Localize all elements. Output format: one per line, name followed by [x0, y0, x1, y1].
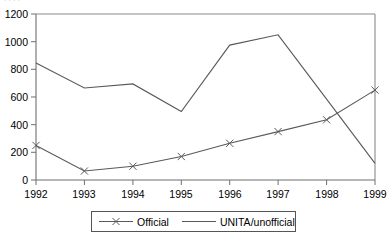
x-tick-label: 1992: [16, 189, 56, 199]
y-tick-label: 800: [0, 64, 28, 74]
y-tick-label: 400: [0, 120, 28, 130]
legend-item-official[interactable]: Official: [92, 212, 169, 231]
x-tick-label: 1993: [64, 189, 104, 199]
x-tick-label: 1999: [355, 189, 388, 199]
axis-frame: [36, 14, 375, 180]
series-line-unita-unofficial: [36, 35, 375, 164]
line-chart: . . . .: [0, 0, 388, 240]
y-tick-label: 1000: [0, 37, 28, 47]
x-tick-label: 1996: [210, 189, 250, 199]
legend-line-icon: [182, 216, 216, 227]
y-axis-ticks: [31, 14, 36, 180]
legend-marker-x-icon: [99, 216, 133, 227]
y-tick-label: 0: [0, 175, 28, 185]
plot-area: [0, 0, 388, 240]
chart-legend: Official UNITA/unofficial: [91, 211, 296, 232]
y-tick-label: 200: [0, 147, 28, 157]
legend-item-unita-unofficial[interactable]: UNITA/unofficial: [169, 212, 295, 231]
legend-label-unita-unofficial: UNITA/unofficial: [220, 216, 295, 228]
x-tick-label: 1997: [258, 189, 298, 199]
y-tick-label: 1200: [0, 9, 28, 19]
x-axis-ticks: [36, 180, 375, 185]
y-tick-label: 600: [0, 92, 28, 102]
x-tick-label: 1994: [113, 189, 153, 199]
legend-label-official: Official: [137, 216, 169, 228]
x-tick-label: 1995: [161, 189, 201, 199]
x-tick-label: 1998: [307, 189, 347, 199]
series-line-official: [36, 90, 375, 171]
